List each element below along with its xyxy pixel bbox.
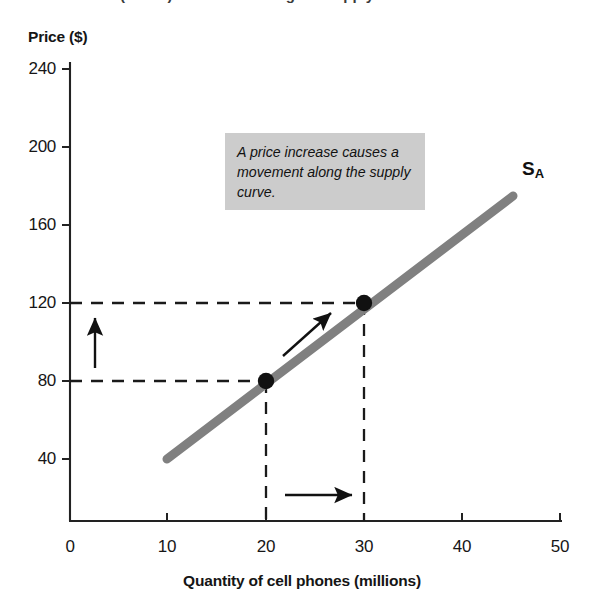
plot-canvas (0, 0, 604, 601)
supply-curve-line (167, 196, 513, 459)
supply-curve-figure: (Part b) Movement along the supply curve… (0, 0, 604, 601)
data-point-new (356, 295, 372, 311)
data-point-initial (258, 373, 274, 389)
